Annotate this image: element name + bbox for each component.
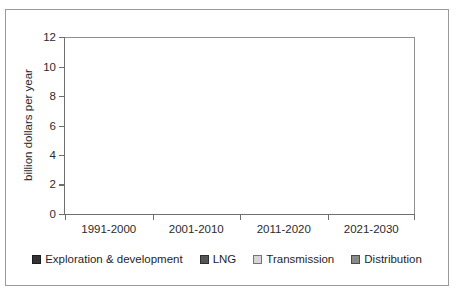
y-tick-label-0: 0 [50,208,56,220]
y-tick-label-4: 4 [50,149,56,161]
y-tick-label-10: 10 [43,61,56,73]
chart-legend: Exploration & development LNG Transmissi… [6,253,448,265]
y-tick-label-6: 6 [50,120,56,132]
y-tick-mark-10 [59,67,65,68]
legend-item-distribution[interactable]: Distribution [351,253,422,265]
legend-label-exploration: Exploration & development [45,253,182,265]
y-tick-label-8: 8 [50,90,56,102]
x-axis-label-2001-2010: 2001-2010 [169,223,224,235]
legend-item-transmission[interactable]: Transmission [253,253,334,265]
legend-label-lng: LNG [213,253,237,265]
chart-figure-frame: billion dollars per year 12 10 8 6 4 2 0… [5,9,449,286]
y-tick-label-2: 2 [50,178,56,190]
y-tick-mark-6 [59,126,65,127]
legend-label-transmission: Transmission [266,253,334,265]
plot-right-rule [414,37,415,214]
y-tick-label-12: 12 [43,31,56,43]
legend-swatch-icon-distribution [351,255,360,264]
cropped-title [6,10,448,14]
y-tick-mark-4 [59,155,65,156]
legend-swatch-icon-exploration [32,255,41,264]
x-axis-label-2011-2020: 2011-2020 [257,223,311,235]
x-axis-label-1991-2000: 1991-2000 [81,223,136,235]
legend-item-exploration[interactable]: Exploration & development [32,253,182,265]
x-axis-label-2021-2030: 2021-2030 [344,223,399,235]
x-tick-mark-2 [240,214,241,220]
x-tick-mark-0 [65,214,66,220]
legend-item-lng[interactable]: LNG [200,253,237,265]
legend-swatch-icon-transmission [253,255,262,264]
x-tick-mark-3 [328,214,329,220]
y-tick-mark-2 [59,184,65,185]
plot-top-rule [65,37,415,38]
x-tick-mark-4 [414,214,415,220]
legend-label-distribution: Distribution [364,253,422,265]
x-tick-mark-1 [153,214,154,220]
plot-area: 12 10 8 6 4 2 0 1991-2000 2001-2010 2011… [64,37,415,215]
y-tick-mark-8 [59,96,65,97]
y-axis-title: billion dollars per year [22,69,34,181]
legend-swatch-icon-lng [200,255,209,264]
y-tick-mark-12 [59,37,65,38]
